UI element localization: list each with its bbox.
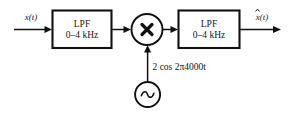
lpf-block-2-line1: LPF <box>201 19 217 29</box>
output-arrowhead <box>273 26 281 33</box>
output-signal-label: x(t) <box>255 9 269 22</box>
lpf-block-1-line1: LPF <box>74 19 90 29</box>
multiplier-node[interactable] <box>132 14 163 45</box>
lpf-block-2-line2: 0–4 kHz <box>193 30 225 40</box>
lpf-block-1[interactable]: LPF 0–4 kHz <box>53 11 112 49</box>
multiplier-input-arrowhead <box>124 26 132 33</box>
lpf-block-1-line2: 0–4 kHz <box>66 30 98 40</box>
oscillator-expression-text: 2 cos 2π4000t <box>153 62 207 72</box>
oscillator-wire <box>144 45 151 82</box>
diagram-canvas: LPF 0–4 kHz LPF 0–4 kHz <box>0 0 292 113</box>
block-diagram: LPF 0–4 kHz LPF 0–4 kHz <box>0 0 292 113</box>
oscillator-arrowhead <box>144 45 151 53</box>
input-arrowhead <box>45 26 53 33</box>
input-signal-text: x(t) <box>24 12 38 22</box>
wire-multiplier-to-lpf2 <box>163 26 179 33</box>
lpf-block-2[interactable]: LPF 0–4 kHz <box>179 11 240 49</box>
local-oscillator[interactable] <box>135 82 160 107</box>
input-wire <box>14 26 52 33</box>
input-signal-label: x(t) <box>24 12 38 22</box>
lpf2-input-arrowhead <box>171 26 179 33</box>
output-signal-text: x(t) <box>255 12 269 22</box>
wire-lpf1-to-multiplier <box>112 26 132 33</box>
oscillator-expression: 2 cos 2π4000t <box>153 62 207 72</box>
output-wire <box>240 26 282 33</box>
